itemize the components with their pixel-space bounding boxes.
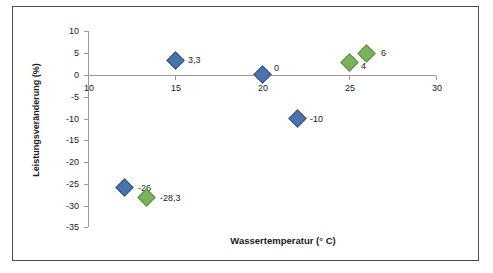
data-point-blue-20-0[interactable] xyxy=(253,65,271,83)
y-tick-label-5: 5 xyxy=(53,48,79,58)
y-axis-title: Leistungsveränderung (%) xyxy=(31,45,41,195)
data-point-blue-22-minus10[interactable] xyxy=(288,109,306,127)
y-tick-minus5 xyxy=(84,97,88,98)
data-label-minus28-3: -28,3 xyxy=(160,193,181,203)
y-tick-label-10: 10 xyxy=(53,26,79,36)
x-axis-title: Wassertemperatur (° C) xyxy=(133,235,433,246)
data-point-green-25-4[interactable] xyxy=(340,53,358,71)
y-tick-5 xyxy=(84,53,88,54)
x-tick-label-15: 15 xyxy=(161,83,191,93)
y-tick-label-minus30: -30 xyxy=(53,201,79,211)
data-label-4: 4 xyxy=(361,61,366,71)
y-tick-minus15 xyxy=(84,140,88,141)
data-point-green-26-6[interactable] xyxy=(357,44,375,62)
data-label-0: 0 xyxy=(274,63,279,73)
data-label-minus10: -10 xyxy=(310,114,323,124)
scatter-plot-area: 10 5 0 -5 -10 -15 -20 -25 -30 -35 10 15 … xyxy=(13,7,480,262)
data-point-blue-12-minus26[interactable] xyxy=(115,178,133,196)
y-tick-label-minus15: -15 xyxy=(53,135,79,145)
y-tick-minus25 xyxy=(84,184,88,185)
x-tick-label-30: 30 xyxy=(422,83,452,93)
data-label-3-3: 3,3 xyxy=(188,55,201,65)
y-tick-minus35 xyxy=(84,227,88,228)
x-tick-10 xyxy=(88,76,89,80)
y-tick-label-minus20: -20 xyxy=(53,157,79,167)
y-axis-line xyxy=(88,31,89,227)
y-tick-label-minus5: -5 xyxy=(53,92,79,102)
y-tick-minus20 xyxy=(84,162,88,163)
x-tick-label-20: 20 xyxy=(248,83,278,93)
chart-frame: 10 5 0 -5 -10 -15 -20 -25 -30 -35 10 15 … xyxy=(12,6,479,261)
data-point-blue-15-3.3[interactable] xyxy=(166,51,184,69)
y-tick-10 xyxy=(84,31,88,32)
x-tick-25 xyxy=(349,76,350,80)
y-tick-label-minus35: -35 xyxy=(53,222,79,232)
y-tick-label-minus25: -25 xyxy=(53,179,79,189)
y-tick-minus30 xyxy=(84,206,88,207)
y-tick-minus10 xyxy=(84,119,88,120)
y-tick-label-minus10: -10 xyxy=(53,114,79,124)
x-tick-15 xyxy=(175,76,176,80)
data-label-6: 6 xyxy=(381,48,386,58)
x-tick-label-25: 25 xyxy=(335,83,365,93)
y-tick-label-0: 0 xyxy=(53,70,79,80)
x-tick-label-10: 10 xyxy=(74,83,104,93)
x-tick-30 xyxy=(436,76,437,80)
